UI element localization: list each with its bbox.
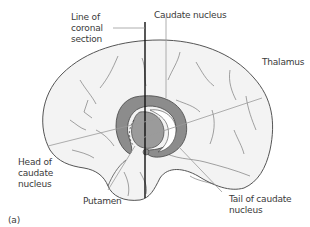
label-caudate-nucleus: Caudate nucleus [154,10,226,21]
brain-diagram: Line of coronal section Caudate nucleus … [0,0,310,227]
label-line-of-coronal-section: Line of coronal section [71,12,103,45]
brain-illustration [0,0,310,227]
label-head-of-caudate-nucleus: Head of caudate nucleus [18,157,53,190]
label-tail-of-caudate-nucleus: Tail of caudate nucleus [229,194,291,216]
panel-label: (a) [8,215,20,226]
amygdala-knob [143,149,149,155]
label-thalamus: Thalamus [262,57,304,68]
label-putamen: Putamen [83,196,122,207]
